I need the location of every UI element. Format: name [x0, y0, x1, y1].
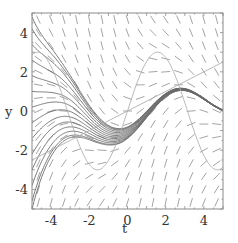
- slope-dash: [215, 28, 218, 37]
- slope-dash: [35, 56, 42, 61]
- slope-dash: [125, 147, 131, 154]
- slope-dash: [112, 95, 118, 102]
- slope-dash: [189, 42, 193, 50]
- y-tick-label: 4: [20, 26, 28, 41]
- slope-dash: [138, 146, 142, 154]
- solution-curve: [32, 90, 224, 154]
- slope-dash: [87, 81, 91, 89]
- slope-dash: [73, 161, 80, 166]
- slope-dash: [62, 42, 66, 50]
- slope-dash: [125, 55, 130, 63]
- slope-dash: [152, 159, 155, 168]
- slope-dash: [189, 55, 194, 62]
- slope-dash: [138, 133, 143, 141]
- slope-dash: [137, 42, 143, 49]
- slope-dash: [176, 121, 182, 128]
- slope-dash: [88, 15, 90, 24]
- slope-dash: [34, 109, 42, 113]
- slope-dash: [76, 15, 78, 24]
- slope-dash: [139, 172, 142, 181]
- slope-dash: [165, 185, 167, 194]
- slope-dash: [126, 185, 129, 193]
- slope-dash: [163, 108, 169, 115]
- slope-dash: [212, 136, 221, 138]
- slope-dash: [37, 198, 39, 207]
- slope-dash: [200, 136, 209, 139]
- slope-dash: [99, 108, 105, 115]
- slope-dash: [202, 41, 205, 49]
- slope-dash: [34, 84, 43, 86]
- slope-dash: [49, 15, 52, 23]
- slope-dash: [161, 71, 170, 72]
- slope-dash: [151, 133, 155, 141]
- slope-dash: [62, 28, 65, 36]
- slope-dash: [34, 70, 42, 74]
- x-tick-label: -4: [45, 213, 58, 228]
- slope-dash: [62, 198, 65, 207]
- x-tick-label: -2: [83, 213, 96, 228]
- slope-dash: [165, 198, 167, 207]
- slope-dash: [72, 149, 81, 152]
- slope-dash: [165, 172, 167, 181]
- slope-dash: [189, 28, 192, 36]
- solution-curve: [32, 90, 224, 201]
- slope-dash: [100, 81, 104, 89]
- slope-dash: [86, 186, 92, 193]
- y-tick-label: -2: [15, 143, 28, 158]
- slope-dash: [85, 150, 94, 151]
- slope-dash: [62, 55, 66, 63]
- slope-dash: [126, 42, 130, 50]
- slope-dash: [189, 172, 193, 180]
- slope-dash: [49, 29, 53, 37]
- slope-dash: [164, 159, 167, 168]
- slope-dash: [150, 29, 156, 35]
- slope-dash: [75, 68, 79, 76]
- x-tick-label: 4: [200, 213, 208, 228]
- slope-dash: [201, 82, 207, 89]
- slope-dash: [215, 15, 217, 24]
- slope-dash: [113, 198, 117, 206]
- slope-dash: [202, 185, 206, 193]
- slope-dash: [100, 199, 105, 206]
- slope-dash: [98, 162, 107, 164]
- slope-dash: [214, 186, 219, 194]
- slope-dash: [188, 134, 195, 140]
- slope-dash: [189, 159, 193, 167]
- slope-dash: [35, 42, 41, 49]
- slope-dash: [203, 15, 205, 24]
- slope-dash: [151, 146, 154, 154]
- y-tick-label: -4: [15, 182, 28, 197]
- slope-dash: [149, 43, 157, 48]
- slope-dash: [149, 83, 157, 87]
- slope-dash: [100, 94, 105, 102]
- slope-dash: [164, 146, 167, 154]
- slope-dash: [111, 123, 119, 126]
- slope-dash: [139, 185, 141, 194]
- slope-dash: [36, 15, 40, 23]
- slope-dash: [114, 28, 116, 37]
- slope-dash: [85, 174, 93, 179]
- y-tick-labels: -4-2024: [15, 26, 28, 198]
- slope-dash: [47, 84, 56, 87]
- direction-field-plot: -4-2024 -4-2024 t y: [0, 0, 238, 243]
- x-tick-label: 2: [162, 213, 170, 228]
- slope-dash: [137, 108, 144, 113]
- slope-dash: [101, 15, 103, 24]
- slope-dash: [126, 172, 130, 180]
- slope-dash: [101, 54, 104, 63]
- slope-dash: [112, 173, 118, 180]
- slope-dash: [212, 124, 221, 125]
- slope-dash: [136, 70, 145, 73]
- slope-dash: [87, 94, 92, 102]
- slope-dash: [213, 148, 221, 152]
- slope-dash: [176, 29, 181, 37]
- slope-dash: [175, 108, 182, 113]
- slope-dash: [188, 147, 194, 154]
- slope-dash: [126, 198, 129, 207]
- slope-dash: [187, 83, 195, 88]
- slope-dash: [49, 159, 53, 167]
- slope-dash: [163, 120, 168, 128]
- slope-dash: [162, 83, 170, 87]
- slope-dash: [190, 185, 193, 193]
- slope-dash: [215, 41, 218, 49]
